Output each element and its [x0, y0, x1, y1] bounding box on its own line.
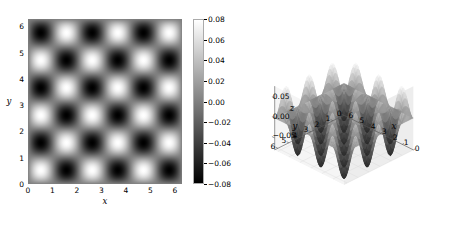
svg-text:x: x [392, 121, 397, 131]
heatmap-image [28, 19, 182, 184]
heatmap-panel: 0 1 2 3 4 5 6 0 1 2 3 4 5 6 x y 0.08 0.0… [0, 0, 226, 227]
heatmap-ytick: 5 [19, 48, 24, 57]
matplotlib-figure: 0 1 2 3 4 5 6 0 1 2 3 4 5 6 x y 0.08 0.0… [0, 0, 452, 227]
heatmap-xtick: 3 [99, 186, 104, 195]
colorbar [193, 19, 204, 184]
heatmap-ytick: 6 [19, 22, 24, 31]
svg-text:0.00: 0.00 [273, 112, 290, 121]
heatmap-xtick: 5 [148, 186, 153, 195]
surface-panel: 0123456x0123456y0.050.00−0.05z [226, 0, 452, 227]
svg-text:6: 6 [270, 142, 275, 151]
colorbar-tick: 0.08 [208, 15, 225, 24]
heatmap-ytick: 2 [19, 127, 24, 136]
colorbar-tick: 0.04 [208, 56, 225, 65]
svg-text:2: 2 [393, 133, 398, 142]
heatmap-ytick: 0 [19, 180, 24, 189]
svg-text:−0.05: −0.05 [273, 131, 296, 140]
svg-text:1: 1 [326, 114, 331, 123]
heatmap-xtick: 4 [124, 186, 129, 195]
svg-text:0: 0 [337, 109, 342, 118]
heatmap-xtick: 6 [173, 186, 178, 195]
colorbar-tick: 0.06 [208, 35, 225, 44]
heatmap-xtick: 1 [50, 186, 55, 195]
heatmap-axes [28, 19, 182, 184]
svg-text:3: 3 [304, 125, 309, 134]
heatmap-xaxis-label: x [103, 196, 108, 206]
svg-text:y: y [292, 121, 298, 131]
heatmap-xtick: 2 [75, 186, 80, 195]
svg-text:5: 5 [360, 116, 365, 125]
heatmap-ytick: 1 [19, 153, 24, 162]
svg-text:3: 3 [382, 127, 387, 136]
heatmap-yaxis-label: y [7, 96, 12, 106]
svg-text:z: z [289, 103, 295, 113]
colorbar-tick: 0.00 [208, 97, 225, 106]
heatmap-ytick: 4 [19, 74, 24, 83]
heatmap-xtick: 0 [26, 186, 31, 195]
svg-text:0.05: 0.05 [273, 92, 290, 101]
svg-text:4: 4 [371, 122, 376, 131]
svg-text:6: 6 [349, 111, 354, 120]
svg-text:2: 2 [315, 120, 320, 129]
svg-text:0: 0 [415, 144, 420, 153]
colorbar-tick: 0.02 [208, 76, 225, 85]
surface-plot: 0123456x0123456y0.050.00−0.05z [226, 0, 452, 227]
svg-text:1: 1 [404, 138, 409, 147]
heatmap-ytick: 3 [19, 101, 24, 110]
